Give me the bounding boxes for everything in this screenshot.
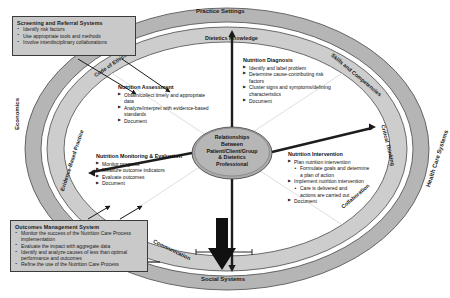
bullet: Document [288,198,396,204]
bullet: Document [118,118,228,124]
ring-label-practice-settings-text: Practice Settings [196,8,245,14]
callout-screening-and-referral-systems: Screening and Referral Systems Identify … [12,16,136,56]
step-nutrition-monitoring-evaluation-title: Nutrition Monitoring & Evaluation [96,153,206,159]
bullet: Document [96,180,206,186]
bullet: Determine cause-contributing risk [243,71,355,77]
step-nutrition-monitoring-evaluation-bullets: Monitor progress Measure outcome indicat… [96,161,206,187]
step-nutrition-intervention-bullets: Plan nutrition intervention Formulate go… [288,159,396,205]
ring-label-social-systems: Social Systems [201,276,245,282]
bullet-cont: standards [118,111,228,117]
center-line-1: Relationships [195,134,269,141]
ring-label-practice-settings: Practice Settings [196,8,245,14]
step-nutrition-diagnosis: Nutrition Diagnosis Identify and label p… [243,57,355,104]
bullet: Analyze/interpret with evidence-based [118,105,228,111]
center-line-2: Between [195,141,269,148]
bullet: Document [243,98,355,104]
bullet: Cluster signs and symptoms/defining [243,84,355,90]
step-nutrition-assessment: Nutrition Assessment Obtain/collect time… [118,84,228,125]
step-nutrition-diagnosis-title: Nutrition Diagnosis [243,57,355,63]
bullet-sub-cont: actions are carried out [288,192,396,198]
bullet-sub: Care is delivered and [288,185,396,191]
bullet-sub: Formulate goals and determine [288,165,396,171]
list-item: Involve interdisciplinary collaborations [17,40,131,46]
bullet: Obtain/collect timely and appropriate [118,92,228,98]
bullet-cont: characteristics [243,91,355,97]
bullet-cont: data [118,98,228,104]
bullet: Measure outcome indicators [96,167,206,173]
step-nutrition-assessment-title: Nutrition Assessment [118,84,228,90]
ring-label-economics-text: Economics [14,98,20,130]
center-line-5: Professional [195,161,269,168]
step-nutrition-intervention: Nutrition Intervention Plan nutrition in… [288,151,396,205]
bullet-cont: factors [243,78,355,84]
ring-label-dietetics-knowledge: Dietetics Knowledge [205,35,258,41]
center-line-4: & Dietetics [195,154,269,161]
bullet: Monitor progress [96,161,206,167]
center-line-3: Patient/Client/Group [195,148,269,155]
diagram-canvas: Practice Settings Social Systems Economi… [0,0,450,298]
list-item: Refine the use of the Nutrition Care Pro… [15,262,143,268]
bullet: Implement nutrition intervention [288,178,396,184]
step-nutrition-diagnosis-bullets: Identify and label problem Determine cau… [243,65,355,104]
callout-screening-bullets: Identify risk factors Use appropriate to… [17,27,131,46]
bullet: Evaluate outcomes [96,174,206,180]
step-nutrition-intervention-title: Nutrition Intervention [288,151,396,157]
callout-outcomes-management-system: Outcomes Management System Monitor the s… [10,220,148,272]
bullet-sub-cont: a plan of action [288,172,396,178]
bullet: Plan nutrition intervention [288,159,396,165]
bullet: Identify and label problem [243,65,355,71]
step-nutrition-assessment-bullets: Obtain/collect timely and appropriate da… [118,92,228,124]
ring-label-economics: Economics [14,98,20,130]
list-item: Identify and analyze causes of less than… [15,250,143,262]
list-item: Monitor the success of the Nutrition Car… [15,231,143,243]
ring-label-social-systems-text: Social Systems [201,276,245,282]
step-nutrition-monitoring-evaluation: Nutrition Monitoring & Evaluation Monito… [96,153,206,187]
ring-label-dietetics-knowledge-text: Dietetics Knowledge [205,35,258,41]
center-hub-label: Relationships Between Patient/Client/Gro… [195,134,269,168]
callout-outcomes-bullets: Monitor the success of the Nutrition Car… [15,231,143,268]
